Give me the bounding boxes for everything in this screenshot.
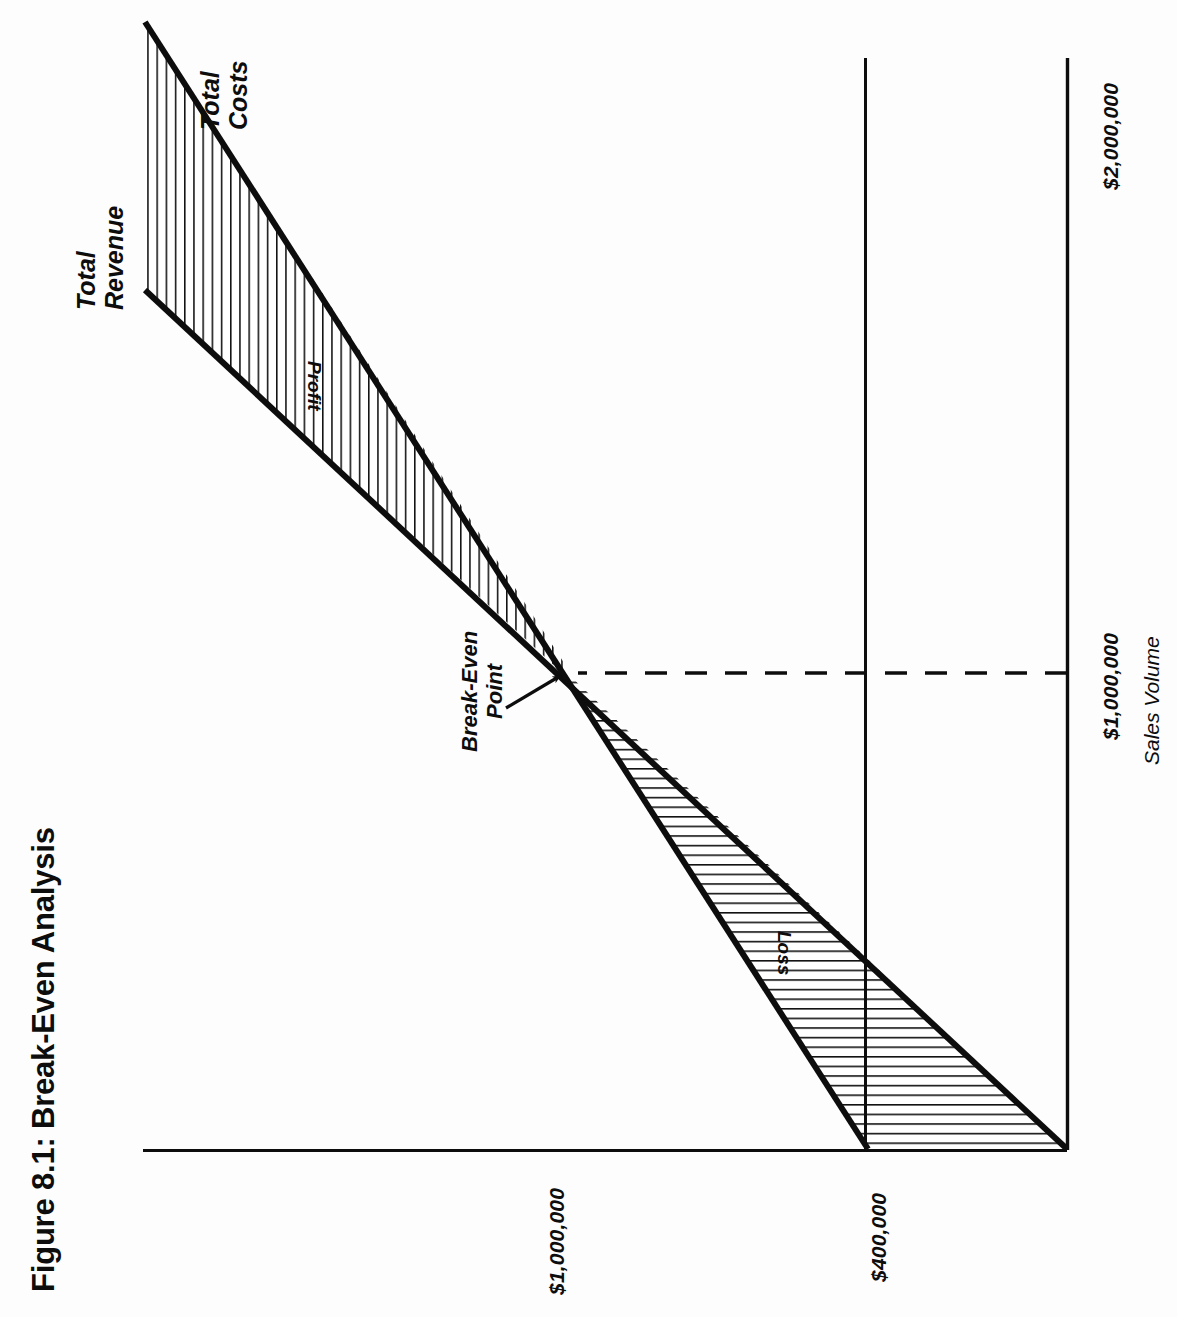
- series-label-total-costs-line1: Total: [196, 61, 224, 130]
- ytick-label-400000: $400,000: [867, 1193, 891, 1282]
- series-label-total-revenue-line2: Revenue: [100, 206, 128, 310]
- region-label-loss: Loss: [773, 931, 795, 975]
- page-title: Figure 8.1: Break-Even Analysis: [26, 827, 62, 1292]
- series-label-total-revenue-line1: Total: [72, 206, 100, 310]
- break-even-arrow: [506, 676, 560, 708]
- annotation-break-even-point: Break-Even Point: [457, 631, 508, 752]
- annotation-break-even-line1: Break-Even: [457, 631, 482, 752]
- total-costs-line: [145, 22, 868, 1149]
- ytick-label-1000000: $1,000,000: [545, 1188, 569, 1295]
- region-label-profit: Profit: [303, 361, 325, 411]
- series-label-total-costs-line2: Costs: [224, 61, 252, 130]
- x-axis-title: Sales Volume: [1140, 636, 1164, 765]
- xtick-label-2000000: $2,000,000: [1099, 83, 1123, 190]
- figure-page: Figure 8.1: Break-Even Analysis Total Co…: [0, 0, 1177, 1317]
- annotation-break-even-line2: Point: [482, 631, 507, 752]
- series-label-total-revenue: Total Revenue: [72, 206, 128, 310]
- xtick-label-1000000: $1,000,000: [1099, 633, 1123, 740]
- series-label-total-costs: Total Costs: [196, 61, 252, 130]
- break-even-chart-svg: [0, 0, 1177, 1317]
- total-revenue-line: [145, 290, 1067, 1149]
